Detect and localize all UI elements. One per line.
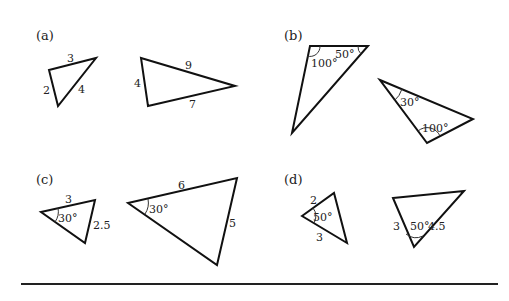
side-label: 2 — [43, 84, 50, 97]
panel-b-triangle-1: 100° 50° — [292, 46, 368, 133]
panel-label-d: (d) — [284, 172, 302, 187]
angle-label: 50° — [313, 211, 333, 224]
angle-label: 30° — [149, 203, 169, 216]
side-label: 7 — [189, 98, 196, 111]
side-label: 3 — [316, 231, 323, 244]
panel-b: (b) 100° 50° 30° 100° — [284, 28, 473, 143]
panel-d-triangle-2: 3 4.5 50° — [393, 191, 464, 247]
panel-c: (c) 3 2.5 30° 6 5 30° — [36, 172, 237, 265]
angle-label: 100° — [311, 57, 338, 70]
panel-a-triangle-1: 3 4 2 — [43, 52, 96, 106]
angle-label: 100° — [422, 122, 449, 135]
side-label: 2 — [310, 194, 317, 207]
panel-label-b: (b) — [284, 28, 302, 43]
angle-label: 30° — [400, 96, 420, 109]
figure-canvas: (a) 3 4 2 9 7 4 (b) 100° 50° — [0, 0, 509, 301]
side-label: 4.5 — [428, 220, 446, 233]
panel-c-triangle-2: 6 5 30° — [128, 178, 237, 265]
angle-arc — [145, 199, 148, 214]
triangle-shape — [393, 191, 464, 247]
angle-arc — [358, 46, 361, 54]
side-label: 4 — [78, 83, 85, 96]
panel-d-triangle-1: 2 3 50° — [302, 193, 347, 244]
panel-label-a: (a) — [36, 28, 54, 43]
side-label: 3 — [393, 220, 400, 233]
bottom-rule-divider — [21, 283, 498, 285]
side-label: 3 — [65, 193, 72, 206]
angle-label: 30° — [58, 212, 78, 225]
side-label: 9 — [185, 59, 192, 72]
triangle-shape — [49, 58, 96, 106]
side-label: 3 — [67, 52, 74, 65]
panel-a: (a) 3 4 2 9 7 4 — [36, 28, 235, 111]
panel-b-triangle-2: 30° 100° — [380, 80, 473, 143]
triangle-similarity-figure: (a) 3 4 2 9 7 4 (b) 100° 50° — [0, 0, 509, 301]
angle-label: 50° — [335, 48, 355, 61]
panel-a-triangle-2: 9 7 4 — [134, 58, 235, 111]
side-label: 2.5 — [93, 219, 111, 232]
side-label: 5 — [229, 217, 236, 230]
side-label: 6 — [178, 179, 185, 192]
panel-c-triangle-1: 3 2.5 30° — [41, 193, 111, 243]
side-label: 4 — [134, 77, 141, 90]
panel-d: (d) 2 3 50° 3 4.5 50° — [284, 172, 464, 247]
angle-label: 50° — [410, 220, 430, 233]
panel-label-c: (c) — [36, 172, 53, 187]
